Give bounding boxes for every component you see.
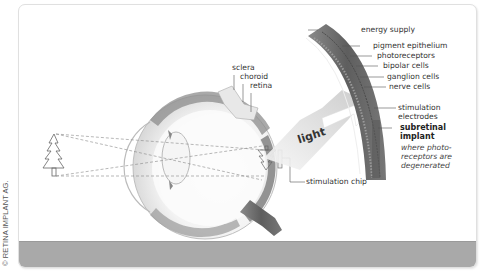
label-pigment-epithelium: pigment epithelium [373, 41, 448, 50]
label-ganglion-cells: ganglion cells [387, 72, 439, 81]
label-nerve-cells: nerve cells [389, 82, 430, 91]
label-photoreceptors: photoreceptors [377, 51, 435, 60]
label-note-1: where photo- [401, 143, 452, 152]
label-subretinal-implant-2: implant [400, 132, 434, 141]
label-choroid: choroid [240, 72, 268, 81]
label-stimulation-electrodes-2: electrodes [398, 112, 438, 121]
label-retina: retina [250, 81, 272, 90]
label-stimulation-chip: stimulation chip [306, 177, 367, 186]
label-stimulation-electrodes-1: stimulation [398, 103, 441, 112]
label-energy-supply: energy supply [361, 25, 415, 34]
label-note-2: receptors are [401, 152, 452, 161]
label-note-3: degenerated [401, 161, 450, 170]
label-bipolar-cells: bipolar cells [383, 61, 429, 70]
label-subretinal-implant-1: subretinal [400, 123, 446, 132]
label-sclera: sclera [232, 63, 255, 72]
tree-icon [43, 134, 64, 176]
